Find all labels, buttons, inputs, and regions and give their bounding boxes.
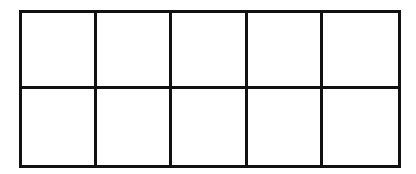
grid-cell-r1-c5 [323, 13, 398, 89]
grid-cell-r2-c3 [172, 89, 247, 165]
grid-cell-r2-c5 [323, 89, 398, 165]
grid-cell-r1-c4 [248, 13, 323, 89]
grid-cell-r2-c4 [248, 89, 323, 165]
grid-cell-r1-c2 [97, 13, 172, 89]
grid-cell-r2-c2 [97, 89, 172, 165]
grid-diagram [19, 10, 401, 168]
grid-cell-r1-c1 [22, 13, 97, 89]
grid-cell-r1-c3 [172, 13, 247, 89]
grid-cell-r2-c1 [22, 89, 97, 165]
